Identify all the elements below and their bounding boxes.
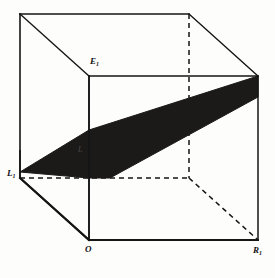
shaded-plane-group: [20, 76, 258, 178]
label-l1-sub: 1: [13, 173, 16, 179]
label-r1-sub: 1: [259, 250, 262, 256]
figure-canvas: E1 L1 O R1 L: [0, 0, 275, 278]
edge-top-left-diagonal: [20, 14, 89, 76]
hidden-edge-back-bottom-right-diagonal: [189, 178, 258, 240]
label-l1-text: L: [7, 168, 13, 178]
label-interior-faint: L: [78, 146, 82, 154]
cube-diagram: [0, 0, 275, 278]
label-e1: E1: [90, 57, 99, 66]
label-l1: L1: [7, 169, 16, 178]
edge-bottom-left-diagonal-overlay: [20, 178, 89, 240]
edge-top-right-diagonal: [189, 14, 258, 76]
label-r1: R1: [253, 246, 262, 255]
label-origin: O: [85, 245, 92, 254]
label-e1-sub: 1: [96, 61, 99, 67]
shaded-plane: [20, 76, 258, 178]
label-origin-text: O: [85, 244, 92, 254]
